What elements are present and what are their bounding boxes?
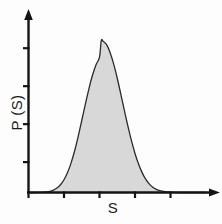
distribution-area-fill xyxy=(29,39,207,192)
distribution-curve-group xyxy=(29,39,207,192)
x-axis-arrowhead xyxy=(209,188,220,196)
x-axis-label: S xyxy=(84,199,142,216)
y-axis-label: P (S) xyxy=(8,84,25,142)
y-axis-arrowhead xyxy=(24,9,33,20)
plot-canvas xyxy=(0,0,222,224)
distribution-figure: P (S) S xyxy=(0,0,222,224)
